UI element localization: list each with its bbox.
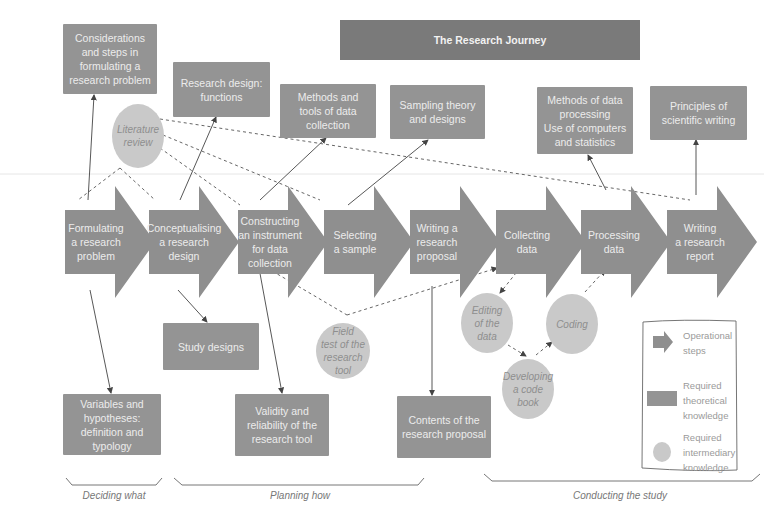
theory-box-sampling: Sampling theory and designs (390, 85, 485, 139)
theory-box-research-design: Research design: functions (173, 62, 270, 117)
theory-box-variables-hypotheses: Variables and hypotheses: definition and… (63, 394, 161, 455)
rectangle-shape-icon (647, 391, 677, 406)
blob-field-test: Field test of the research tool (316, 323, 370, 379)
step-label: Writing a research report (667, 210, 733, 274)
phase-deciding-what: Deciding what (66, 490, 162, 501)
step-collecting-data: Collecting data (496, 186, 586, 298)
step-conceptualising-design: Conceptualising a research design (149, 186, 239, 298)
arrow-shape-icon (653, 331, 673, 353)
step-label: Selecting a sample (324, 210, 386, 274)
step-label: Formulating a research problem (65, 210, 127, 274)
step-label: Processing data (581, 210, 647, 274)
phase-planning-how: Planning how (220, 490, 380, 501)
step-constructing-instrument: Constructing an instrument for data coll… (238, 186, 328, 298)
blob-literature-review: Literature review (112, 104, 164, 168)
step-writing-proposal: Writing a research proposal (410, 186, 500, 298)
diagram-title: The Research Journey (340, 20, 640, 60)
step-selecting-sample: Selecting a sample (324, 186, 414, 298)
theory-box-validity-reliability: Validity and reliability of the research… (235, 394, 329, 456)
theory-box-data-collection-methods: Methods and tools of data collection (280, 84, 376, 138)
research-journey-diagram: The Research Journey Considerations and … (0, 0, 764, 510)
step-writing-report: Writing a research report (667, 186, 757, 298)
legend-label-intermediary: Required intermediary knowledge (683, 430, 735, 475)
step-label: Writing a research proposal (410, 210, 464, 274)
step-formulating-problem: Formulating a research problem (65, 186, 155, 298)
legend: Operational steps Required theoretical k… (640, 318, 764, 478)
legend-label-operational: Operational steps (683, 328, 732, 358)
phase-conducting-study: Conducting the study (540, 490, 700, 501)
step-processing-data: Processing data (581, 186, 671, 298)
theory-box-scientific-writing: Principles of scientific writing (650, 86, 747, 140)
theory-box-formulating-problem: Considerations and steps in formulating … (63, 24, 157, 94)
circle-shape-icon (653, 442, 671, 462)
step-label: Constructing an instrument for data coll… (238, 210, 302, 274)
step-label: Conceptualising a research design (149, 210, 219, 274)
theory-box-data-processing: Methods of data processing Use of comput… (537, 87, 633, 154)
legend-label-theoretical: Required theoretical knowledge (683, 378, 728, 423)
blob-coding: Coding (546, 294, 598, 354)
blob-editing-data: Editing of the data (461, 293, 513, 353)
theory-box-proposal-contents: Contents of the research proposal (397, 396, 491, 458)
blob-code-book: Developing a code book (502, 359, 554, 419)
theory-box-study-designs: Study designs (163, 323, 259, 370)
step-label: Collecting data (496, 210, 558, 274)
